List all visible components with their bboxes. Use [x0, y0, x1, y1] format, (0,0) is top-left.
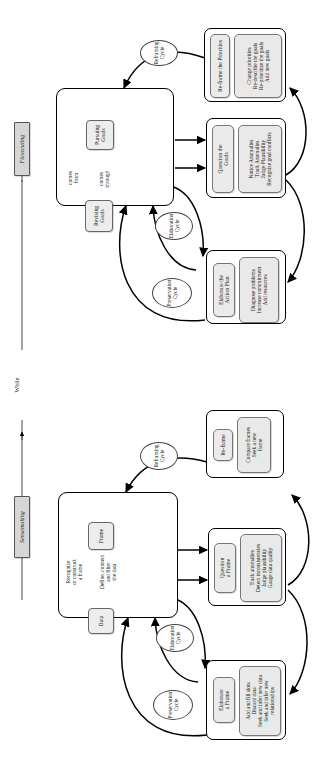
activity-elaborate-the-action-plan-details: Diagnose problems Increase commitment Ad…: [250, 267, 268, 314]
activity-question-a-frame-details: Track anomalies Detect inconsistencies J…: [249, 544, 273, 592]
activity-elaborate-a-frame-detail-chip: Add and fill slots Discard data Seek and…: [239, 666, 281, 736]
edge-label-comes-from-text: comes from: [67, 171, 79, 185]
phase-tag-flexecuting: Flexecuting: [14, 122, 30, 176]
edge-label-comes-through: comes through: [92, 158, 116, 200]
activity-elaborate-a-frame-details: Add and fill slots Discard data Seek and…: [245, 675, 275, 727]
node-frame-label: Frame: [98, 529, 104, 544]
activity-question-a-frame-title: Question a Frame: [219, 558, 232, 579]
activity-elaborate-the-action-plan-title: Elaborate the Action Plan: [218, 275, 231, 305]
activity-re-frame: Re-frame Compare frames Seek a new frame: [206, 410, 284, 478]
activity-question-a-frame-detail-chip: Track anomalies Detect inconsistencies J…: [240, 534, 282, 602]
while-axis-label: While: [4, 350, 30, 420]
edge-label-recognize-or-construct-a-frame: Recognize or construct a frame: [60, 548, 88, 596]
activity-re-frame-title: Re-frame: [220, 434, 226, 455]
cycle-reframing-flexecuting: Reframing Cycle: [140, 40, 178, 66]
phase-tag-flexecuting-label: Flexecuting: [19, 135, 26, 164]
cycle-preservation-flexecuting: Preservation Cycle: [152, 278, 192, 308]
edge-label-define-connect-and-filter-the-data: Define, connect and filter the data: [94, 546, 122, 598]
phase-tag-sensemaking: Sensemaking: [14, 496, 30, 558]
cycle-elaboration-sensemaking-label: Elaboration Cycle: [169, 625, 181, 650]
edge-label-comes-through-text: comes through: [98, 171, 110, 188]
edge-label-recognize-or-construct-a-frame-text: Recognize or construct a frame: [65, 559, 83, 585]
activity-elaborate-a-frame: Elaborate a Frame Add and fill slots Dis…: [206, 660, 286, 740]
activity-elaborate-a-frame-title: Elaborate a Frame: [218, 689, 231, 711]
cycle-preservation-sensemaking-label: Preservation Cycle: [167, 692, 179, 719]
activity-elaborate-the-action-plan-title-chip: Elaborate the Action Plan: [213, 263, 235, 317]
activity-reframe-the-priorities-title-chip: Re-frame the Priorities: [210, 34, 230, 98]
activity-question-a-frame: Question a Frame Track anomalies Detect …: [208, 528, 286, 606]
activity-elaborate-a-frame-title-chip: Elaborate a Frame: [213, 677, 235, 723]
activity-re-frame-details: Compare frames Seek a new frame: [245, 427, 263, 463]
activity-question-the-goals: Question the Goals Notice Anomalies Trac…: [206, 118, 286, 198]
node-revising-goals: Revising Goals: [85, 200, 113, 232]
activity-reframe-the-priorities-detail-chip: Change priorities Re-describe the goals …: [234, 34, 282, 98]
flexecution-sensemaking-diagram: While Flexecuting Sensemaking Pursuing G…: [0, 0, 321, 776]
activity-reframe-the-priorities-title: Re-frame the Priorities: [217, 40, 223, 92]
edge-label-define-connect-and-filter-the-data-text: Define, connect and filter the data: [99, 555, 117, 589]
node-pursuing-goals-label: Pursuing Goals: [94, 125, 107, 145]
node-data-label: Data: [98, 616, 104, 627]
cycle-reframing-sensemaking-label: Reframing Cycle: [153, 444, 165, 467]
activity-question-the-goals-details: Notice Anomalies Track Anomalies Judge P…: [248, 132, 272, 185]
activity-question-a-frame-title-chip: Question a Frame: [214, 543, 236, 593]
activity-elaborate-the-action-plan: Elaborate the Action Plan Diagnose probl…: [206, 250, 286, 324]
cycle-reframing-flexecuting-label: Reframing Cycle: [153, 41, 165, 64]
phase-tag-sensemaking-label: Sensemaking: [19, 511, 26, 543]
edge-label-comes-from: comes from: [62, 160, 84, 196]
activity-reframe-the-priorities-details: Change priorities Re-describe the goals …: [246, 42, 270, 90]
node-revising-goals-label: Revising Goals: [93, 206, 106, 226]
cycle-preservation-sensemaking: Preservation Cycle: [153, 690, 193, 720]
while-label-text: While: [14, 378, 21, 393]
activity-question-the-goals-detail-chip: Notice Anomalies Track Anomalies Judge P…: [238, 125, 282, 193]
cycle-elaboration-flexecuting: Elaboration Cycle: [155, 212, 193, 240]
cycle-preservation-flexecuting-label: Preservation Cycle: [166, 280, 178, 307]
cycle-elaboration-flexecuting-label: Elaboration Cycle: [168, 213, 180, 238]
activity-re-frame-detail-chip: Compare frames Seek a new frame: [237, 417, 271, 473]
cycle-elaboration-sensemaking: Elaboration Cycle: [156, 624, 194, 652]
activity-elaborate-the-action-plan-detail-chip: Diagnose problems Increase commitment Ad…: [239, 257, 279, 323]
activity-re-frame-title-chip: Re-frame: [213, 429, 233, 461]
node-data: Data: [88, 608, 114, 634]
activity-question-the-goals-title-chip: Question the Goals: [212, 125, 234, 193]
activity-question-the-goals-title: Question the Goals: [217, 145, 230, 174]
cycle-reframing-sensemaking: Reframing Cycle: [140, 442, 178, 470]
activity-reframe-the-priorities: Re-frame the Priorities Change prioritie…: [204, 28, 286, 102]
node-pursuing-goals: Pursuing Goals: [86, 120, 114, 150]
